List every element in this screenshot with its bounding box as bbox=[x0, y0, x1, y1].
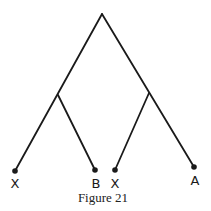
leaf-label-x1: X bbox=[11, 177, 20, 190]
tree-diagram bbox=[0, 0, 211, 211]
edge-root-right bbox=[102, 14, 194, 167]
leaf-node-x2 bbox=[112, 167, 118, 173]
phylogenetic-tree-figure: X B X A Figure 21 bbox=[0, 0, 211, 211]
leaf-label-b: B bbox=[92, 177, 101, 190]
leaf-node-x1 bbox=[12, 168, 18, 174]
leaf-label-x2: X bbox=[111, 177, 120, 190]
edge-left-internal-b bbox=[58, 95, 95, 170]
leaf-node-a bbox=[191, 164, 197, 170]
leaf-node-b bbox=[92, 167, 98, 173]
figure-caption: Figure 21 bbox=[0, 190, 206, 206]
leaf-label-a: A bbox=[191, 174, 200, 187]
edge-right-internal-x bbox=[115, 93, 149, 170]
edge-root-left bbox=[15, 14, 102, 171]
